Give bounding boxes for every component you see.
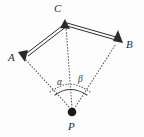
angle-label-beta: β: [78, 75, 83, 85]
point-label-a: A: [8, 52, 15, 63]
point-label-c: C: [54, 3, 61, 14]
vector-c-to-b-line-outer: [67, 23, 116, 37]
vector-c-to-b-line-inner: [67, 26, 116, 40]
angle-label-alpha: α: [57, 78, 62, 88]
sight-line-p-a: [25, 59, 71, 109]
vertex-c-arrowhead: [60, 19, 70, 29]
sight-lines-group: [25, 27, 116, 109]
vector-c-to-a: [18, 23, 67, 62]
geometry-figure: C A B P α β: [0, 0, 144, 137]
point-label-b: B: [126, 39, 133, 50]
sight-line-p-c: [66, 27, 72, 108]
vector-c-to-a-line-outer: [27, 23, 66, 53]
figure-canvas: [0, 0, 144, 137]
vertex-p-dot: [68, 108, 77, 117]
vector-c-to-b: [67, 23, 123, 43]
point-label-p: P: [68, 121, 75, 132]
vector-c-to-a-line-inner: [28, 26, 67, 56]
